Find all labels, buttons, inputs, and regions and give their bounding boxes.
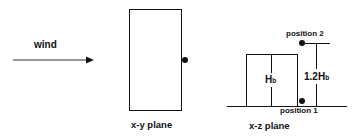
xy-building: [130, 10, 182, 111]
wind-label: wind: [34, 40, 57, 50]
xy-sensor-dot: [182, 57, 188, 63]
height-label: 1.2Hb: [304, 72, 329, 82]
diagram: wind x-y plane x-z plane Hb 1.2Hb positi…: [0, 0, 359, 138]
position-1-label: position 1: [280, 107, 318, 115]
wind-arrow: [13, 57, 94, 64]
position-2-label: position 2: [286, 30, 324, 38]
hb-label: Hb: [265, 75, 276, 85]
position-1-dot: [299, 98, 305, 104]
xz-plane-label: x-z plane: [249, 121, 290, 131]
xy-plane-label: x-y plane: [131, 120, 172, 130]
position-2-dot: [299, 40, 305, 46]
diagram-graphics: [0, 0, 359, 138]
